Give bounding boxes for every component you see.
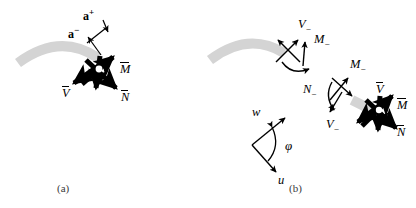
label-V-bar-a: V <box>62 84 70 100</box>
caption-panel-a: (a) <box>57 183 69 194</box>
label-M-minus-top: M− <box>314 33 330 49</box>
force-cluster-b-middle <box>328 78 372 112</box>
label-a-plus: a+ <box>83 8 94 22</box>
arrow-V-minus-middle <box>330 92 342 112</box>
label-M-bar-a: M <box>120 60 130 76</box>
label-N-bar-b: N <box>397 123 405 139</box>
label-V-minus-top: V− <box>298 18 311 34</box>
label-a-minus: a− <box>68 26 79 40</box>
label-V-bar-b: V <box>376 80 384 96</box>
label-V-minus-middle: V− <box>326 118 339 134</box>
label-M-bar-b: M <box>397 96 407 112</box>
caption-panel-b: (b) <box>289 183 302 194</box>
shell-arc-b <box>210 44 284 60</box>
label-axis-w: w <box>252 106 260 119</box>
label-N-bar-a: N <box>121 88 129 104</box>
label-angle-phi: φ <box>285 139 292 152</box>
axis-w <box>252 118 285 145</box>
coordinate-triad-b <box>252 118 285 172</box>
arrow-M-minus-left <box>303 42 305 66</box>
label-M-minus-middle: M− <box>350 58 366 74</box>
label-axis-u: u <box>278 174 284 187</box>
label-N-minus-middle: N− <box>303 83 316 99</box>
arrow-moment-curve-left <box>282 62 309 71</box>
figure-container: a+ a− M N V (a) V− M− N− V− M− V M N w u… <box>0 0 416 208</box>
angle-arc-phi <box>268 127 276 161</box>
axis-u <box>252 145 276 172</box>
panel-b-graphics <box>210 40 396 172</box>
panel-a-graphics <box>18 20 116 88</box>
figure-drawing <box>0 0 416 208</box>
